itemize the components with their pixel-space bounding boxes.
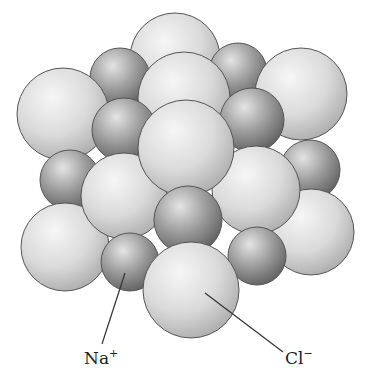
cl-ion bbox=[138, 100, 234, 196]
cl-ion bbox=[17, 68, 109, 160]
spheres bbox=[17, 13, 354, 338]
cl-label: Cl− bbox=[285, 347, 313, 368]
cl-ion bbox=[143, 242, 239, 338]
na-label: Na+ bbox=[84, 347, 118, 368]
nacl-lattice-diagram: Na+ Cl− bbox=[0, 0, 369, 386]
